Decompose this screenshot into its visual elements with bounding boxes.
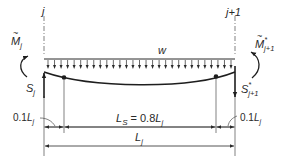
- moment-arrow-right: [251, 52, 259, 78]
- support-label-left: j: [40, 5, 45, 17]
- beam-diagram: j j+1 w Sj S*j+1 Mj ~ M*j+1 ~: [0, 0, 290, 161]
- dimension-label-right-end: 0.1Lj: [240, 112, 261, 126]
- shear-label-right: S*j+1: [241, 80, 258, 98]
- dimension-label-span: LS = 0.8Lj: [116, 112, 163, 127]
- moment-accent-left: ~: [13, 28, 18, 38]
- deflected-beam: [44, 72, 235, 85]
- shear-label-left: Sj: [26, 82, 35, 97]
- leader-left: [40, 118, 55, 126]
- inflection-point-left: [62, 75, 67, 80]
- moment-arrow-left: [21, 56, 28, 77]
- dimension-label-left-end: 0.1Lj: [13, 112, 34, 126]
- load-arrows: [47, 60, 233, 69]
- load-label: w: [158, 44, 167, 56]
- inflection-point-right: [214, 74, 219, 79]
- support-label-right: j+1: [224, 6, 241, 18]
- dimension-label-total: Lj: [135, 131, 143, 146]
- leader-right: [228, 116, 237, 126]
- moment-accent-right: ~: [257, 31, 262, 41]
- distributed-load: [44, 59, 235, 69]
